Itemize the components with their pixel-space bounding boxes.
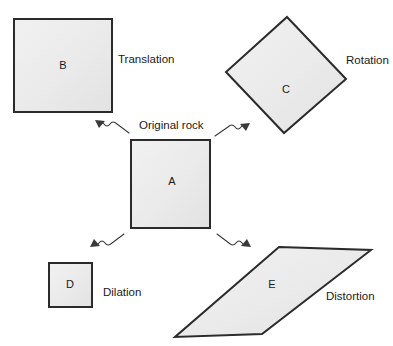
arrow-a-to-e [217,234,251,247]
caption-distortion: Distortion [326,290,375,302]
shape-c: C [226,17,346,133]
shape-group: B C A D E [14,17,371,337]
shape-a-letter: A [168,175,176,187]
arrow-a-to-d [90,234,124,247]
caption-translation: Translation [118,53,174,65]
caption-rotation: Rotation [346,54,389,66]
shape-e-letter: E [268,278,275,290]
shape-c-letter: C [282,83,290,95]
shape-d: D [49,263,92,307]
shape-b-letter: B [59,59,66,71]
caption-dilation: Dilation [103,286,141,298]
arrow-a-to-b [95,120,129,133]
caption-original-rock: Original rock [139,119,204,131]
shape-c-outline [226,17,346,133]
shape-b: B [14,19,112,112]
shape-a: A [131,140,210,228]
arrow-a-to-c [215,123,250,136]
shape-d-letter: D [66,278,74,290]
diagram-svg: B C A D E Translation Rotation Orig [0,0,393,346]
diagram-canvas: B C A D E Translation Rotation Orig [0,0,393,346]
